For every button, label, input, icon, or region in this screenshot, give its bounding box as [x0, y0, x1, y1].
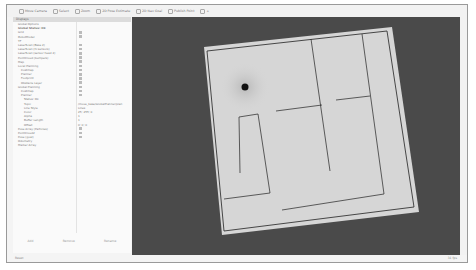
enable-checkbox[interactable] — [79, 73, 82, 76]
nav-goal-icon — [136, 9, 141, 14]
tool-label: Zoom — [81, 9, 90, 13]
enable-checkbox[interactable] — [79, 48, 82, 51]
rviz-window: Move CameraSelectZoom2D Pose Estimate2D … — [6, 4, 468, 263]
tool-publish-point[interactable]: Publish Point — [168, 9, 194, 14]
displays-panel: Displays Global OptionsGlobal Status: Ok… — [13, 17, 131, 253]
select-icon — [53, 9, 58, 14]
toolbar: Move CameraSelectZoom2D Pose Estimate2D … — [7, 5, 467, 17]
enable-checkbox[interactable] — [79, 60, 82, 63]
displays-tree: Global OptionsGlobal Status: OkGridRobot… — [13, 22, 131, 148]
pose-estimate-icon — [96, 9, 101, 14]
enable-checkbox[interactable] — [79, 65, 82, 68]
fps-counter: 31 fps — [448, 256, 457, 260]
enable-checkbox[interactable] — [79, 81, 82, 84]
enable-checkbox[interactable] — [79, 136, 82, 139]
add-button[interactable]: Add — [28, 239, 34, 243]
display-label: Marker Array — [18, 143, 36, 147]
enable-checkbox[interactable] — [79, 69, 82, 72]
tool-select[interactable]: Select — [53, 9, 69, 14]
rename-button[interactable]: Rename — [104, 239, 116, 243]
map-area — [204, 27, 419, 235]
enable-checkbox[interactable] — [79, 44, 82, 47]
display-row[interactable]: Marker Array — [13, 143, 131, 147]
tool-zoom[interactable]: Zoom — [75, 9, 90, 14]
3d-viewport[interactable] — [132, 17, 460, 255]
tool-label: Publish Point — [174, 9, 194, 13]
tool-label: Select — [59, 9, 69, 13]
displays-buttons: Add Remove Rename — [13, 239, 131, 243]
tool-pose-estimate[interactable]: 2D Pose Estimate — [96, 9, 130, 14]
enable-checkbox[interactable] — [79, 77, 82, 80]
enable-checkbox[interactable] — [79, 52, 82, 55]
status-reset[interactable]: Reset — [15, 256, 23, 260]
tool-add-tool[interactable]: + — [200, 9, 209, 14]
map-render — [132, 17, 460, 255]
tool-label: 2D Nav Goal — [142, 9, 162, 13]
publish-point-icon — [168, 9, 173, 14]
tool-nav-goal[interactable]: 2D Nav Goal — [136, 9, 162, 14]
enable-checkbox[interactable] — [79, 94, 82, 97]
robot-marker — [242, 84, 249, 91]
tool-label: 2D Pose Estimate — [102, 9, 130, 13]
tool-label: + — [206, 9, 209, 13]
add-tool-icon — [200, 9, 205, 14]
zoom-icon — [75, 9, 80, 14]
views-panel-collapsed[interactable] — [460, 17, 467, 255]
enable-checkbox[interactable] — [79, 31, 82, 34]
enable-checkbox[interactable] — [79, 127, 82, 130]
enable-checkbox[interactable] — [79, 132, 82, 135]
move-camera-icon — [19, 9, 24, 14]
tool-move-camera[interactable]: Move Camera — [19, 9, 47, 14]
tool-label: Move Camera — [25, 9, 47, 13]
remove-button[interactable]: Remove — [63, 239, 75, 243]
enable-checkbox[interactable] — [79, 86, 82, 89]
enable-checkbox[interactable] — [79, 56, 82, 59]
enable-checkbox[interactable] — [79, 90, 82, 93]
enable-checkbox[interactable] — [79, 35, 82, 38]
